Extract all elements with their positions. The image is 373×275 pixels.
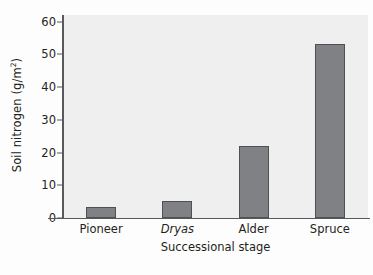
x-axis-tick-label: Alder <box>239 222 269 236</box>
y-axis-tick-mark <box>57 119 63 120</box>
x-axis-tick-label: Pioneer <box>80 222 123 236</box>
x-axis-tick-labels: PioneerDryasAlderSpruce <box>63 222 368 240</box>
bar-alder <box>239 146 269 218</box>
chart-figure: Soil nitrogen (g/m2) 0102030405060 Pione… <box>0 0 373 275</box>
y-axis-tick-label: 10 <box>28 178 56 192</box>
y-axis-tick-mark <box>57 218 63 219</box>
y-axis-tick-mark <box>57 185 63 186</box>
y-axis-tick-label: 20 <box>28 146 56 160</box>
x-axis-line <box>48 218 370 220</box>
bar-dryas <box>162 201 192 218</box>
y-axis-tick-labels: 0102030405060 <box>26 0 56 275</box>
plot-area <box>63 15 368 218</box>
y-axis-tick-mark <box>57 54 63 55</box>
x-axis-tick-label: Spruce <box>310 222 350 236</box>
y-axis-line <box>62 15 64 219</box>
y-axis-tick-label: 30 <box>28 113 56 127</box>
bar-pioneer <box>86 207 116 218</box>
y-axis-tick-mark <box>57 21 63 22</box>
y-axis-title-tail: ) <box>10 58 24 63</box>
y-axis-tick-label: 60 <box>28 15 56 29</box>
y-axis-title: Soil nitrogen (g/m2) <box>6 0 28 230</box>
y-axis-tick-mark <box>57 152 63 153</box>
y-axis-title-exponent: 2 <box>9 62 18 67</box>
bar-spruce <box>315 44 345 218</box>
y-axis-tick-label: 40 <box>28 80 56 94</box>
y-axis-title-main: Soil nitrogen (g/m <box>10 67 24 172</box>
y-axis-title-text: Soil nitrogen (g/m2) <box>10 58 24 172</box>
x-axis-title: Successional stage <box>63 240 368 254</box>
x-axis-tick-label: Dryas <box>161 222 194 236</box>
y-axis-tick-mark <box>57 87 63 88</box>
y-axis-tick-label: 50 <box>28 47 56 61</box>
